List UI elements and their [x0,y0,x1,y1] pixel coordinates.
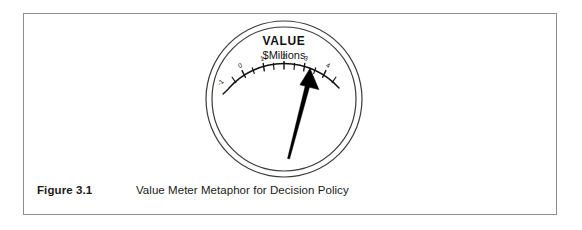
minor-tick-2-5 [294,63,295,69]
tick-label-4: 4 [325,61,332,69]
major-tick--1 [223,89,229,94]
tick-label--1: -1 [216,77,225,86]
figure-page: -1 0 1 2 3 4 VALUE $Millions Figure 3.1 … [0,0,582,230]
minor-tick-1-5 [273,63,274,69]
needle-shaft [288,83,311,159]
gauge-subtitle-text: $Millions [263,49,306,61]
figure-number-label: Figure 3.1 [24,184,136,196]
gauge-title-text: VALUE [263,34,306,48]
major-tick-3 [304,64,305,71]
minor-tick-4-5 [332,77,336,82]
minor-tick--0-5 [232,77,236,82]
figure-caption-text: Value Meter Metaphor for Decision Policy [136,184,349,196]
value-meter-gauge: -1 0 1 2 3 4 VALUE $Millions [23,13,557,178]
tick-label-0: 0 [237,61,244,69]
gauge-needle [288,69,319,160]
major-tick-1 [263,64,264,71]
needle-arrowhead [300,69,319,90]
figure-caption-row: Figure 3.1 Value Meter Metaphor for Deci… [24,184,556,206]
gauge-illustration: -1 0 1 2 3 4 VALUE $Millions [23,13,557,178]
